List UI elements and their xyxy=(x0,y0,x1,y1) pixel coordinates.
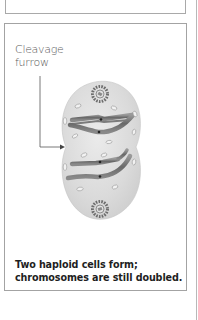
caption-line-1: Two haploid cells form; xyxy=(15,258,182,271)
caption-line-2: chromosomes are still doubled. xyxy=(15,271,182,284)
figure-caption: Two haploid cells form; chromosomes are … xyxy=(15,258,182,284)
arrow-right-icon xyxy=(40,76,65,150)
